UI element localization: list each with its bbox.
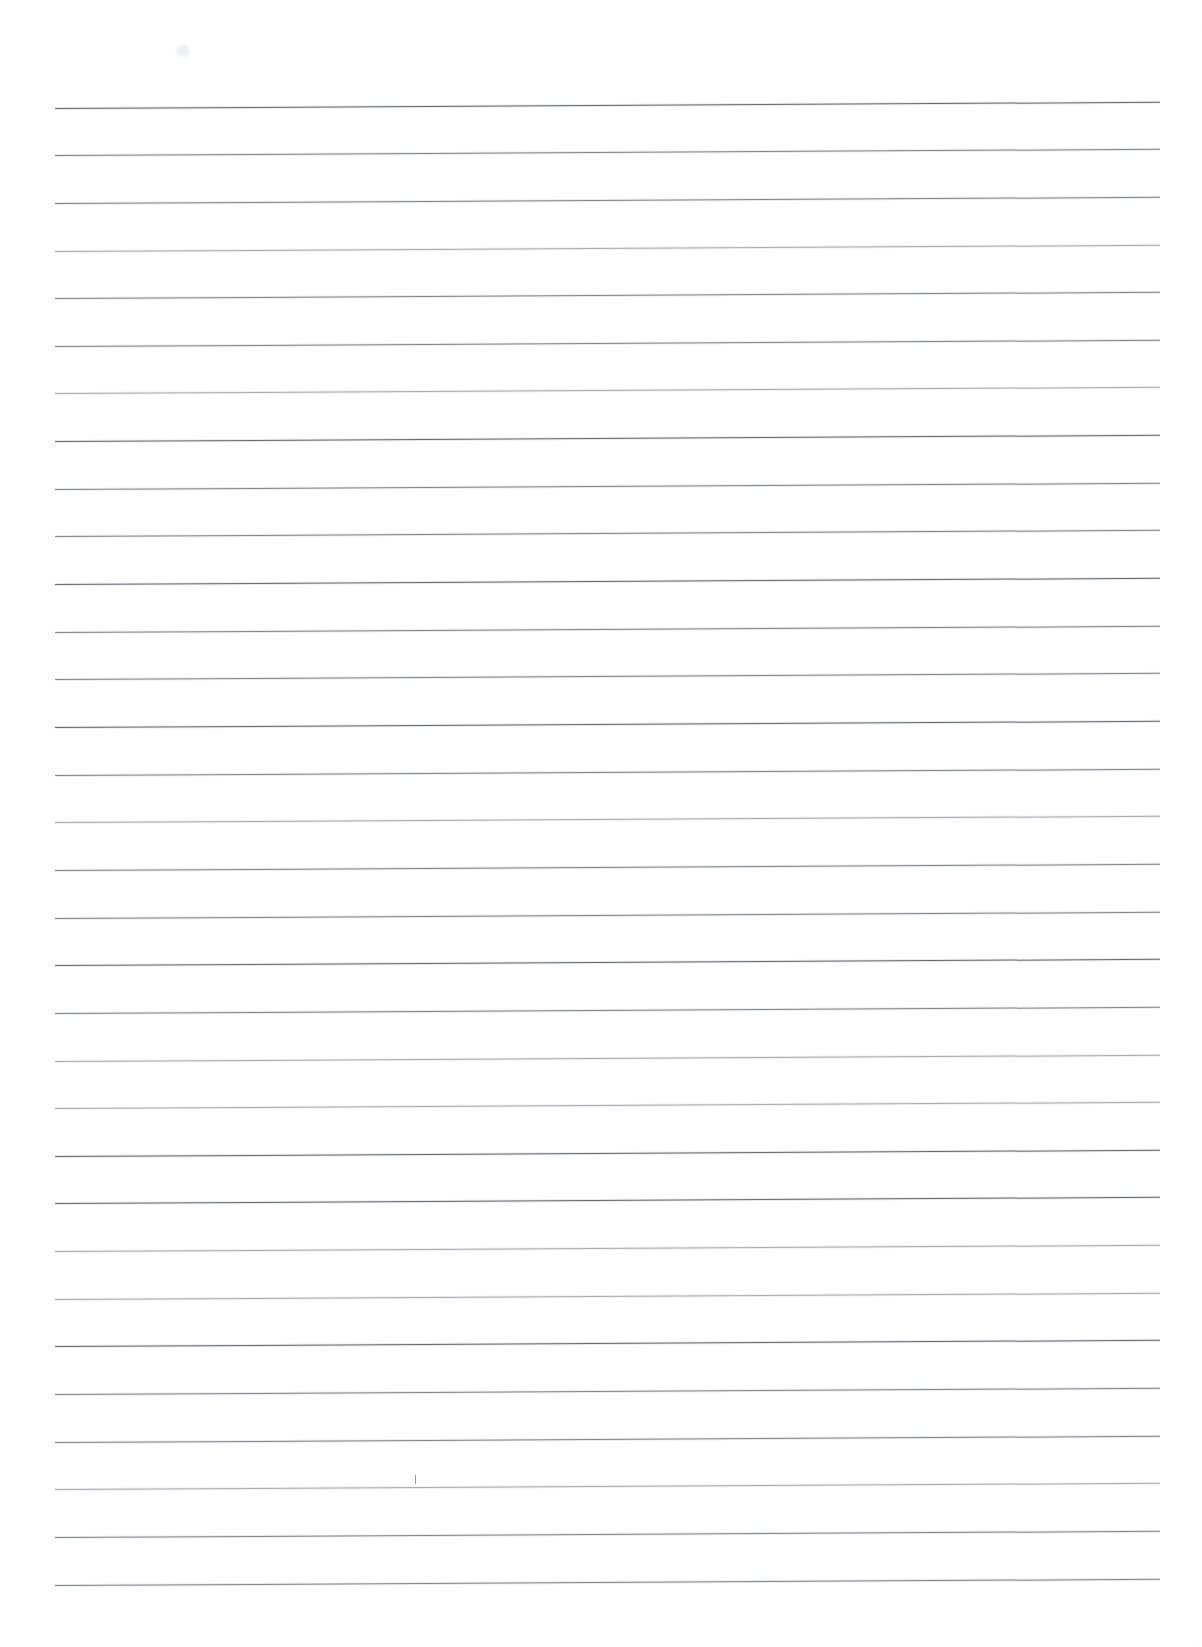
pen-tick-mark — [415, 1475, 416, 1484]
ruled-line — [55, 530, 1160, 537]
ruled-line — [55, 1483, 1160, 1490]
ruled-line-layer — [0, 0, 1202, 1647]
ruled-line — [55, 912, 1160, 919]
ruled-line — [55, 1007, 1160, 1014]
ruled-line — [55, 626, 1160, 633]
ruled-line — [55, 1245, 1160, 1252]
ruled-line — [55, 245, 1160, 252]
ruled-line — [55, 197, 1160, 204]
ruled-line — [55, 1293, 1160, 1300]
ruled-line — [55, 1436, 1160, 1443]
ruled-line — [55, 578, 1160, 585]
ruled-line — [55, 102, 1160, 109]
ruled-line — [55, 1388, 1160, 1395]
ruled-line — [55, 435, 1160, 442]
ruled-line — [55, 1340, 1160, 1347]
ruled-line — [55, 1531, 1160, 1538]
ruled-line — [55, 1197, 1160, 1204]
ruled-line — [55, 340, 1160, 347]
ruled-line — [55, 1579, 1160, 1586]
ruled-line — [55, 864, 1160, 871]
scan-smudge-top-left — [176, 45, 190, 57]
ruled-line — [55, 816, 1160, 823]
ruled-line — [55, 483, 1160, 490]
ruled-line — [55, 292, 1160, 299]
scanned-page: Blank ruled notebook page — [0, 0, 1202, 1647]
ruled-line — [55, 1102, 1160, 1109]
ruled-line — [55, 1150, 1160, 1157]
ruled-line — [55, 769, 1160, 776]
ruled-line — [55, 959, 1160, 966]
ruled-line — [55, 1055, 1160, 1062]
ruled-line — [55, 721, 1160, 728]
ruled-line — [55, 673, 1160, 680]
ruled-line — [55, 387, 1160, 394]
ruled-line — [55, 149, 1160, 156]
